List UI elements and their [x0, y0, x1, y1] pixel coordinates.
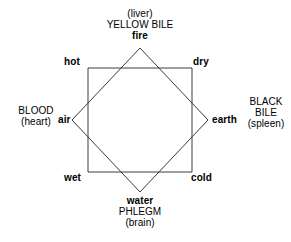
- blood-organ: (heart): [21, 116, 51, 127]
- element-fire-label: fire: [132, 30, 148, 41]
- diamond-of-elements: [72, 48, 208, 192]
- black-bile-name-line2: BILE: [255, 107, 277, 118]
- element-water-label: water: [127, 195, 154, 206]
- quality-hot-label: hot: [64, 56, 80, 68]
- quality-dry-label: dry: [193, 56, 209, 68]
- element-air-label: air: [58, 114, 71, 126]
- quality-cold-label: cold: [191, 172, 212, 184]
- phlegm-organ: (brain): [125, 217, 154, 228]
- square-of-qualities: [88, 68, 192, 172]
- yellow-bile-group: (liver) YELLOW BILE fire: [40, 8, 240, 41]
- humours-diagram: (liver) YELLOW BILE fire water PHLEGM (b…: [0, 0, 291, 242]
- yellow-bile-name: YELLOW BILE: [107, 19, 174, 30]
- blood-group: BLOOD (heart): [8, 105, 64, 127]
- phlegm-group: water PHLEGM (brain): [40, 195, 240, 228]
- black-bile-name-line1: BLACK: [249, 96, 282, 107]
- yellow-bile-organ: (liver): [127, 8, 152, 19]
- element-earth-label: earth: [212, 114, 237, 126]
- quality-wet-label: wet: [64, 172, 81, 184]
- black-bile-organ: (spleen): [248, 118, 285, 129]
- phlegm-name: PHLEGM: [119, 206, 162, 217]
- black-bile-group: BLACK BILE (spleen): [243, 96, 289, 129]
- blood-name: BLOOD: [18, 105, 53, 116]
